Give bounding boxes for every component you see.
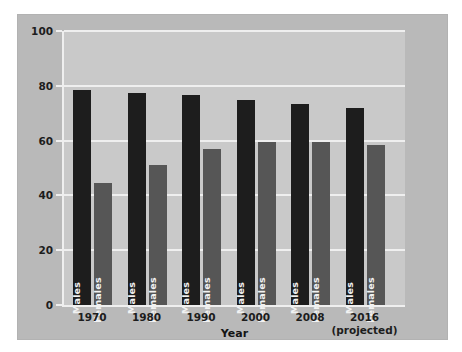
bar-label: Males bbox=[180, 282, 191, 314]
bar-group: MalesFemales1980 bbox=[128, 31, 167, 305]
y-axis-tick-label: 40 bbox=[38, 189, 53, 201]
x-axis-tick-year: 1970 bbox=[77, 311, 106, 323]
bar-label: Males bbox=[126, 282, 137, 314]
bar-males-2000: Males bbox=[237, 100, 255, 306]
bar-group: MalesFemales2016(projected) bbox=[346, 31, 385, 305]
bar-group: MalesFemales1990 bbox=[182, 31, 221, 305]
bar-females-1990: Females bbox=[203, 149, 221, 305]
y-axis-tick bbox=[56, 194, 62, 196]
bar-label: Males bbox=[289, 282, 300, 314]
x-axis-tick-year: 2000 bbox=[241, 311, 270, 323]
bar-group: MalesFemales1970 bbox=[73, 31, 112, 305]
x-axis-label: Year bbox=[221, 327, 248, 340]
y-axis-tick bbox=[56, 304, 62, 306]
plot-area: 020406080100 MalesFemales1970MalesFemale… bbox=[64, 31, 405, 305]
y-axis-tick bbox=[56, 30, 62, 32]
bar-females-2008: Females bbox=[312, 142, 330, 305]
bar-males-2008: Males bbox=[291, 104, 309, 305]
bar-females-1970: Females bbox=[94, 183, 112, 305]
bar-males-1970: Males bbox=[73, 90, 91, 305]
y-axis-tick bbox=[56, 85, 62, 87]
chart-figure: Participation rate (percent) 02040608010… bbox=[17, 14, 448, 340]
x-axis-tick-year: 2016 bbox=[350, 311, 379, 323]
y-axis-tick bbox=[56, 140, 62, 142]
bar-group: MalesFemales2008 bbox=[291, 31, 330, 305]
bar-males-1980: Males bbox=[128, 93, 146, 305]
y-axis-tick bbox=[56, 249, 62, 251]
bar-males-2016: Males bbox=[346, 108, 364, 305]
y-axis-tick-label: 0 bbox=[46, 299, 53, 311]
y-axis-tick-label: 100 bbox=[31, 25, 53, 37]
y-axis-tick-label: 80 bbox=[38, 80, 53, 92]
bar-males-1990: Males bbox=[182, 95, 200, 305]
y-axis-tick-label: 20 bbox=[38, 244, 53, 256]
x-axis-tick-sublabel: (projected) bbox=[325, 324, 405, 337]
bar-label: Males bbox=[344, 282, 355, 314]
bar-label: Males bbox=[235, 282, 246, 314]
y-axis-tick-label: 60 bbox=[38, 135, 53, 147]
x-axis-tick-year: 1980 bbox=[132, 311, 161, 323]
x-axis-tick-label: 2016(projected) bbox=[325, 311, 405, 337]
x-axis-tick-year: 2008 bbox=[295, 311, 324, 323]
x-axis-tick-year: 1990 bbox=[186, 311, 215, 323]
y-axis-line bbox=[62, 31, 64, 305]
bar-females-1980: Females bbox=[149, 165, 167, 305]
bar-females-2000: Females bbox=[258, 142, 276, 305]
bar-females-2016: Females bbox=[367, 145, 385, 305]
bar-label: Males bbox=[71, 282, 82, 314]
bar-group: MalesFemales2000 bbox=[237, 31, 276, 305]
